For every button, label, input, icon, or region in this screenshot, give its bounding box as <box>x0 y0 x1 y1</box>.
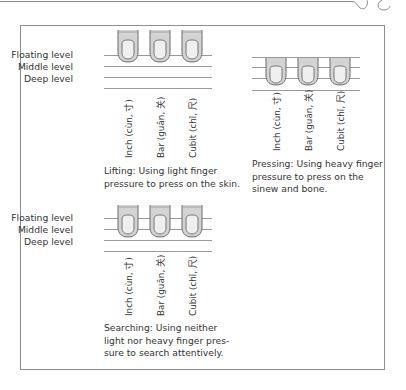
caption-line: Searching: Using neither <box>104 322 229 335</box>
level-label-middle: Middle level <box>0 224 73 235</box>
deep-level-line <box>104 240 212 241</box>
caption-line: sure to search attentively. <box>104 347 229 360</box>
finger-cubit-icon <box>181 205 203 238</box>
finger-inch-icon <box>117 205 139 238</box>
caption-line: light nor heavy finger pres- <box>104 335 229 348</box>
finger-bar-icon <box>149 205 171 238</box>
caption-searching: Searching: Using neither light nor heavy… <box>104 322 229 360</box>
level-label-deep: Deep level <box>0 236 73 247</box>
position-label-cubit: Cubit (chǐ, 尺) <box>186 256 199 316</box>
panel-searching: Floating level Middle level Deep level I… <box>0 0 406 390</box>
position-label-inch: Inch (cùn, 寸) <box>122 257 135 316</box>
position-label-bar: Bar (guān, 关) <box>154 255 167 316</box>
level-label-floating: Floating level <box>0 212 73 223</box>
base-line <box>104 251 212 252</box>
